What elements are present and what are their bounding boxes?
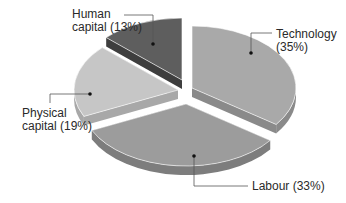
label-line: (35%) <box>276 41 337 54</box>
label-technology: Technology (35%) <box>276 28 337 54</box>
label-physical-capital: Physical capital (19%) <box>22 107 92 133</box>
leader-dot <box>249 51 253 55</box>
label-human-capital: Human capital (13%) <box>72 8 142 34</box>
label-line: capital (13%) <box>72 21 142 34</box>
label-line: Labour (33%) <box>252 180 325 193</box>
leader-dot <box>192 154 196 158</box>
leader-dot <box>88 92 92 96</box>
label-labour: Labour (33%) <box>252 180 325 193</box>
label-line: capital (19%) <box>22 120 92 133</box>
leader-dot <box>151 42 155 46</box>
pie-slices <box>74 18 296 175</box>
